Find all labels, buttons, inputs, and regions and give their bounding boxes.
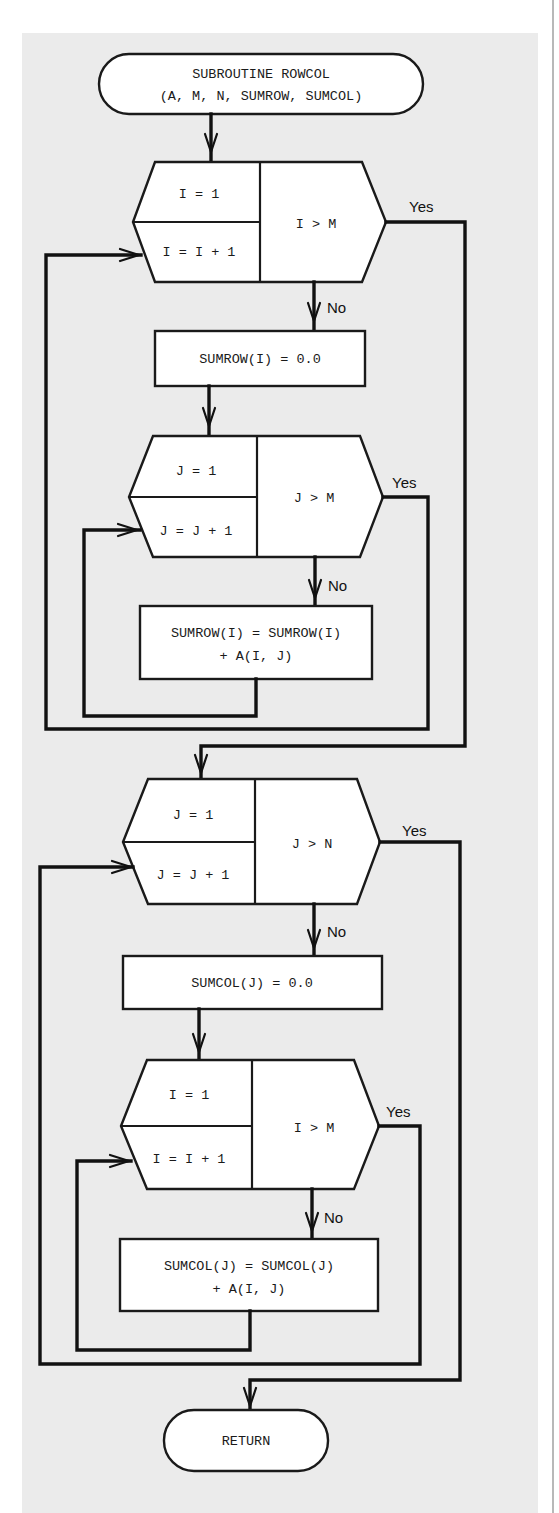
loop-j-outer-init: J = 1 bbox=[173, 808, 214, 823]
loop-i-outer-increment: I = I + 1 bbox=[163, 245, 236, 260]
start-terminator: SUBROUTINE ROWCOL (A, M, N, SUMROW, SUMC… bbox=[99, 54, 423, 114]
loop-j-inner-increment: J = J + 1 bbox=[160, 524, 233, 539]
loop-j-inner-yes-label: Yes bbox=[392, 474, 416, 491]
flowchart: SUBROUTINE ROWCOL (A, M, N, SUMROW, SUMC… bbox=[0, 0, 559, 1513]
loop-i-outer-init: I = 1 bbox=[179, 187, 220, 202]
loop-j-inner-test: J > M bbox=[294, 491, 335, 506]
sumcol-accumulate-line-1: SUMCOL(J) = SUMCOL(J) bbox=[164, 1259, 334, 1274]
sumcol-init-text: SUMCOL(J) = 0.0 bbox=[191, 976, 313, 991]
loop-i-inner-no-label: No bbox=[324, 1209, 343, 1226]
end-label: RETURN bbox=[222, 1434, 271, 1449]
loop-j-outer-test: J > N bbox=[292, 837, 333, 852]
connector-loop3-no bbox=[308, 904, 320, 956]
loop-j-inner-hexagon: J = 1 J = J + 1 J > M bbox=[129, 436, 383, 557]
sumcol-accumulate-line-2: + A(I, J) bbox=[213, 1282, 286, 1297]
sumrow-init-text: SUMROW(I) = 0.0 bbox=[199, 352, 321, 367]
sumcol-accumulate-process: SUMCOL(J) = SUMCOL(J) + A(I, J) bbox=[120, 1239, 378, 1311]
sumrow-accumulate-line-1: SUMROW(I) = SUMROW(I) bbox=[171, 626, 341, 641]
loop-i-inner-increment: I = I + 1 bbox=[153, 1152, 226, 1167]
connector-sumcol-init-to-loop4 bbox=[193, 1009, 205, 1060]
connector-sumrow-init-to-loop2 bbox=[203, 386, 215, 436]
start-line-1: SUBROUTINE ROWCOL bbox=[192, 67, 330, 82]
start-line-2: (A, M, N, SUMROW, SUMCOL) bbox=[160, 89, 363, 104]
loop-i-inner-hexagon: I = 1 I = I + 1 I > M bbox=[121, 1060, 379, 1189]
loop-i-outer-test: I > M bbox=[296, 217, 337, 232]
connector-loop2-no bbox=[309, 557, 321, 606]
loop-j-outer-increment: J = J + 1 bbox=[157, 868, 230, 883]
loop-i-inner-init: I = 1 bbox=[169, 1088, 210, 1103]
loop-i-inner-test: I > M bbox=[294, 1121, 335, 1136]
loop-i-outer-yes-label: Yes bbox=[409, 198, 433, 215]
loop-i-inner-yes-label: Yes bbox=[386, 1103, 410, 1120]
end-terminator: RETURN bbox=[164, 1410, 328, 1471]
loop-i-outer-hexagon: I = 1 I = I + 1 I > M bbox=[133, 162, 386, 282]
sumcol-init-process: SUMCOL(J) = 0.0 bbox=[123, 956, 382, 1009]
loop-j-inner-no-label: No bbox=[328, 577, 347, 594]
connector-loop1-no bbox=[308, 282, 320, 331]
loop-j-outer-hexagon: J = 1 J = J + 1 J > N bbox=[123, 779, 380, 904]
loop-j-outer-no-label: No bbox=[327, 923, 346, 940]
sumrow-init-process: SUMROW(I) = 0.0 bbox=[155, 331, 365, 386]
sumrow-accumulate-line-2: + A(I, J) bbox=[220, 649, 293, 664]
loop-i-outer-no-label: No bbox=[327, 299, 346, 316]
loop-j-outer-yes-label: Yes bbox=[402, 822, 426, 839]
connector-start-to-loop1 bbox=[205, 114, 217, 162]
loop-j-inner-init: J = 1 bbox=[176, 464, 217, 479]
connector-loop4-no bbox=[306, 1189, 318, 1239]
sumrow-accumulate-process: SUMROW(I) = SUMROW(I) + A(I, J) bbox=[140, 606, 372, 679]
page: SUBROUTINE ROWCOL (A, M, N, SUMROW, SUMC… bbox=[0, 0, 559, 1513]
